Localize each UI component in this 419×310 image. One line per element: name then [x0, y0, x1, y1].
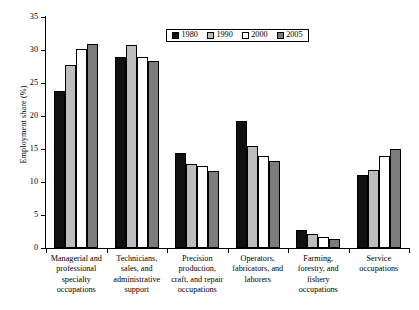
bar-group	[167, 17, 228, 248]
x-tick	[409, 248, 410, 253]
category-label-line: craft, and repair	[164, 275, 231, 285]
bar-group	[107, 17, 168, 248]
bar-2000	[137, 57, 148, 248]
legend-swatch-icon	[242, 32, 249, 39]
y-tick-label-5: 5	[12, 211, 38, 219]
y-tick-label-35: 35	[12, 13, 38, 21]
legend-swatch-icon	[172, 32, 179, 39]
bar-1980	[175, 153, 186, 248]
x-tick	[46, 248, 47, 253]
category-label-line: administrative	[104, 275, 171, 285]
bar-2000	[318, 237, 329, 248]
bar-2000	[258, 156, 269, 248]
legend-label: 1980	[182, 31, 198, 39]
bar-1990	[186, 164, 197, 248]
category-label-line: fishery	[285, 275, 352, 285]
category-label-line: Operators,	[225, 254, 292, 264]
bar-2005	[390, 149, 401, 248]
bar-1990	[126, 45, 137, 248]
legend-swatch-icon	[207, 32, 214, 39]
legend-swatch-icon	[277, 32, 284, 39]
category-label: Managerial andprofessionalspecialtyoccup…	[43, 254, 110, 296]
bar-2000	[197, 166, 208, 248]
legend-label: 1990	[216, 31, 232, 39]
category-label-line: Farming,	[285, 254, 352, 264]
category-label: Operators,fabricators, andlaborers	[225, 254, 292, 285]
bar-2005	[329, 239, 340, 248]
bar-1990	[307, 234, 318, 248]
category-label-line: Technicians,	[104, 254, 171, 264]
category-label: Precisionproduction,craft, and repairocc…	[164, 254, 231, 296]
category-label-line: laborers	[225, 275, 292, 285]
bar-2005	[269, 161, 280, 248]
legend-label: 2000	[251, 31, 267, 39]
x-tick	[349, 248, 350, 253]
category-label-line: occupations	[285, 285, 352, 295]
bar-1990	[368, 170, 379, 248]
bar-group	[228, 17, 289, 248]
x-tick	[288, 248, 289, 253]
category-label: Serviceoccupations	[346, 254, 413, 275]
bar-1990	[65, 65, 76, 248]
bar-2000	[76, 49, 87, 248]
y-tick-label-20: 20	[12, 112, 38, 120]
category-label-line: production,	[164, 264, 231, 274]
employment-share-bar-chart: Employment share (%) 05101520253035 Mana…	[0, 0, 419, 310]
bar-1980	[357, 175, 368, 248]
category-label-line: Service	[346, 254, 413, 264]
category-label-line: specialty	[43, 275, 110, 285]
chart-legend: 1980199020002005	[166, 29, 309, 42]
bar-2005	[148, 61, 159, 248]
y-tick-label-0: 0	[12, 244, 38, 252]
category-label-line: occupations	[346, 264, 413, 274]
category-label-line: professional	[43, 264, 110, 274]
bar-2005	[208, 171, 219, 248]
bar-1980	[115, 57, 126, 248]
y-tick-label-10: 10	[12, 178, 38, 186]
category-label-line: occupations	[43, 285, 110, 295]
category-label-line: forestry, and	[285, 264, 352, 274]
legend-item-2000: 2000	[242, 31, 268, 39]
bar-1980	[236, 121, 247, 248]
bar-1990	[247, 146, 258, 248]
x-tick	[228, 248, 229, 253]
plot-area	[46, 17, 409, 248]
category-label-line: support	[104, 285, 171, 295]
x-tick	[167, 248, 168, 253]
category-label-line: sales, and	[104, 264, 171, 274]
legend-item-1980: 1980	[172, 31, 198, 39]
legend-item-2005: 2005	[277, 31, 303, 39]
category-label-line: fabricators, and	[225, 264, 292, 274]
category-label-line: occupations	[164, 285, 231, 295]
category-label: Farming,forestry, andfisheryoccupations	[285, 254, 352, 296]
category-label: Technicians,sales, andadministrativesupp…	[104, 254, 171, 296]
x-tick	[107, 248, 108, 253]
y-tick-label-25: 25	[12, 79, 38, 87]
legend-item-1990: 1990	[207, 31, 233, 39]
bar-2005	[87, 44, 98, 248]
bar-group	[288, 17, 349, 248]
bar-group	[46, 17, 107, 248]
bar-2000	[379, 156, 390, 248]
bar-1980	[54, 91, 65, 248]
bar-group	[349, 17, 410, 248]
category-label-line: Precision	[164, 254, 231, 264]
y-tick-label-15: 15	[12, 145, 38, 153]
legend-label: 2005	[286, 31, 302, 39]
category-label-line: Managerial and	[43, 254, 110, 264]
bar-1980	[296, 230, 307, 248]
y-tick-label-30: 30	[12, 46, 38, 54]
